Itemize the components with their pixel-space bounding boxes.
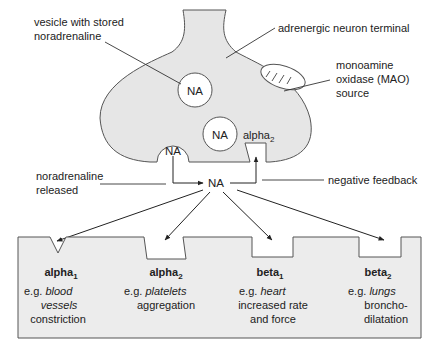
receptor-example: e.g. platelets — [124, 285, 187, 297]
terminal-label-text: adrenergic neuron terminal — [278, 22, 409, 34]
vesicle-label: NA — [187, 85, 203, 97]
vesicle-releasing: NA — [165, 145, 181, 157]
receptor-example: e.g. heart — [239, 285, 286, 297]
terminal-leader-line — [226, 28, 275, 58]
vesicle-1: NA — [178, 73, 212, 107]
receptor-effect: constriction — [30, 313, 86, 325]
arrow-to-alpha2 — [165, 192, 210, 240]
receptor-effect: aggregation — [137, 299, 195, 311]
receptor-example: e.g. blood — [24, 285, 73, 297]
arrow-to-alpha1 — [57, 190, 203, 241]
receptor-example: e.g. lungs — [348, 285, 396, 297]
receptor-effect: broncho- — [364, 299, 408, 311]
vesicle-label-text: vesicle with storednoradrenaline — [34, 16, 124, 42]
synaptic-na-label: NA — [208, 177, 224, 189]
vesicle-label: NA — [165, 145, 181, 157]
released-label-text: noradrenalinereleased — [36, 170, 103, 196]
noradrenaline-synapse-diagram: NA NA NA alpha2 vesicle with storednorad… — [0, 0, 439, 359]
vesicle-label: NA — [212, 129, 228, 141]
arrow-to-beta2 — [237, 190, 384, 240]
receptor-effect-line2: dilatation — [364, 313, 408, 325]
receptor-effect: increased rate — [238, 299, 308, 311]
receptor-effect-line2: and force — [250, 313, 296, 325]
receptor-tissue-line2: vessels — [41, 299, 78, 311]
vesicle-2: NA — [203, 117, 237, 151]
feedback-label-text: negative feedback — [328, 174, 418, 186]
mao-label-text: monoamineoxidase (MAO)source — [336, 59, 409, 99]
